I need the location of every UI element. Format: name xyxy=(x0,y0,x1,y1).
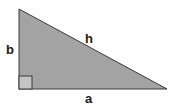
label-h: h xyxy=(85,32,93,45)
label-a: a xyxy=(85,92,92,105)
right-angle-marker xyxy=(19,76,32,89)
label-b: b xyxy=(6,43,14,56)
right-triangle xyxy=(19,9,167,89)
triangle-figure xyxy=(0,0,177,105)
